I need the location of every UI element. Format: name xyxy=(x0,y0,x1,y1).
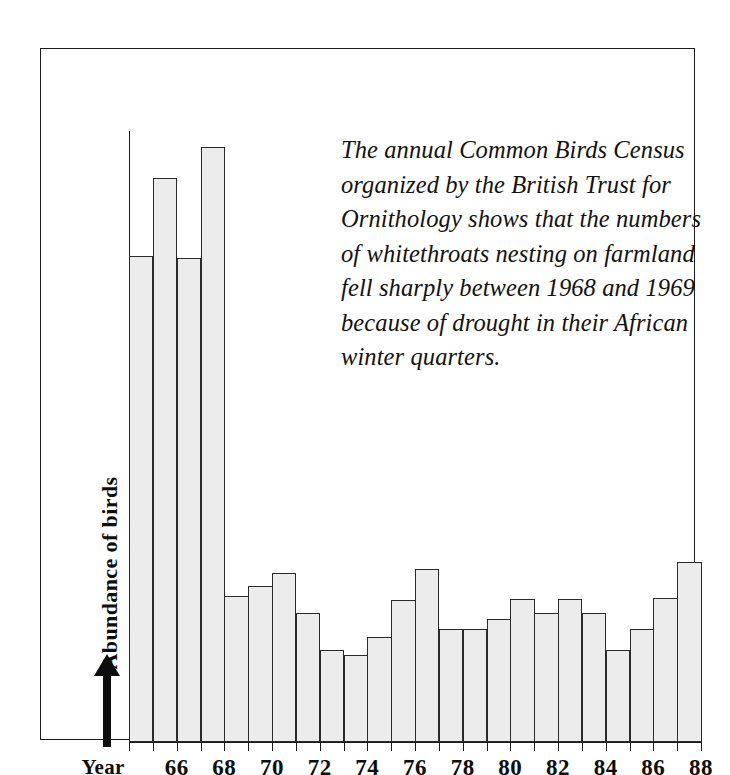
bar xyxy=(320,650,344,742)
figure-frame: The annual Common Birds Censusorganized … xyxy=(40,48,695,740)
bar xyxy=(630,629,654,742)
x-axis-ticks xyxy=(129,742,701,752)
x-axis-tick xyxy=(510,742,511,751)
x-axis-tick xyxy=(630,742,631,751)
x-axis-year-word: Year xyxy=(75,755,131,775)
x-axis-tick xyxy=(296,742,297,751)
x-axis-tick xyxy=(201,742,202,751)
plot-area: Year666870727476788082848688 xyxy=(129,131,701,742)
x-axis-tick-label: 82 xyxy=(538,755,578,775)
x-axis-tick xyxy=(320,742,321,751)
x-axis-tick-label: 70 xyxy=(252,755,292,775)
bar xyxy=(439,629,463,742)
x-axis-tick xyxy=(224,742,225,751)
bar xyxy=(224,596,248,742)
bar xyxy=(510,599,534,742)
bar xyxy=(177,258,201,742)
y-axis-caption-group: Abundance of birds xyxy=(91,464,125,749)
x-axis-tick-label: 76 xyxy=(395,755,435,775)
bar xyxy=(558,599,582,742)
x-axis-tick xyxy=(463,742,464,751)
x-axis-tick-label: 84 xyxy=(586,755,626,775)
bar xyxy=(296,613,320,742)
bar xyxy=(367,637,391,742)
bar xyxy=(272,573,296,743)
x-axis-tick xyxy=(391,742,392,751)
up-arrow-shaft-icon xyxy=(103,669,111,747)
bar xyxy=(415,569,439,742)
x-axis-tick xyxy=(606,742,607,751)
x-axis-tick xyxy=(129,742,130,751)
x-axis-tick xyxy=(701,742,702,751)
bar xyxy=(606,650,630,742)
bar xyxy=(534,613,558,742)
x-axis-tick-label: 68 xyxy=(204,755,244,775)
x-axis-tick-label: 88 xyxy=(681,755,721,775)
x-axis-tick xyxy=(558,742,559,751)
bar xyxy=(463,629,487,742)
x-axis-tick-labels: Year666870727476788082848688 xyxy=(81,755,721,775)
x-axis-tick-label: 72 xyxy=(300,755,340,775)
bar xyxy=(582,613,606,742)
x-axis-tick-label: 74 xyxy=(347,755,387,775)
bar xyxy=(677,562,701,742)
x-axis-tick xyxy=(248,742,249,751)
x-axis-tick xyxy=(344,742,345,751)
x-axis-tick xyxy=(272,742,273,751)
x-axis-tick xyxy=(487,742,488,751)
x-axis-tick xyxy=(534,742,535,751)
x-axis-tick xyxy=(367,742,368,751)
x-axis-tick-label: 86 xyxy=(633,755,673,775)
x-axis-tick xyxy=(153,742,154,751)
figure-root: The annual Common Birds Censusorganized … xyxy=(0,0,730,775)
x-axis-tick xyxy=(177,742,178,751)
bar xyxy=(391,600,415,742)
x-axis-tick xyxy=(653,742,654,751)
x-axis-tick-label: 80 xyxy=(490,755,530,775)
bar xyxy=(201,147,225,742)
bar xyxy=(153,178,177,742)
x-axis-tick xyxy=(415,742,416,751)
bar xyxy=(129,256,153,742)
bar xyxy=(653,598,677,742)
bar xyxy=(487,619,511,742)
bar xyxy=(344,655,368,742)
x-axis-tick-label: 66 xyxy=(157,755,197,775)
x-axis-tick xyxy=(439,742,440,751)
x-axis-tick xyxy=(677,742,678,751)
bar-series xyxy=(129,131,701,742)
x-axis-tick xyxy=(582,742,583,751)
bar xyxy=(248,586,272,742)
x-axis-tick-label: 78 xyxy=(443,755,483,775)
